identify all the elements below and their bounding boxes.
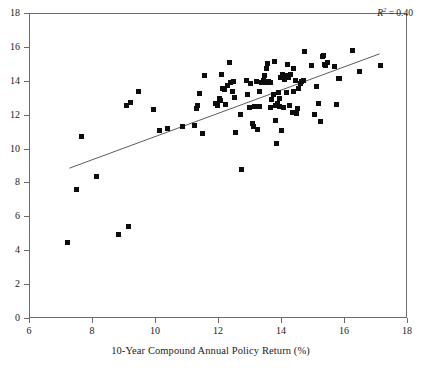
data-point xyxy=(254,79,259,84)
data-point xyxy=(223,102,228,107)
plot-data-area xyxy=(30,14,406,317)
y-tick-label: 12 xyxy=(0,109,20,121)
data-point xyxy=(334,102,339,107)
data-point xyxy=(200,131,205,136)
regression-trendline xyxy=(30,14,406,317)
data-point xyxy=(265,61,270,66)
y-tick xyxy=(24,216,29,217)
data-point xyxy=(302,49,307,54)
data-point xyxy=(337,76,342,81)
data-point xyxy=(309,63,314,68)
y-tick xyxy=(24,47,29,48)
data-point xyxy=(192,123,197,128)
y-tick-label: 16 xyxy=(0,41,20,53)
y-tick-label: 0 xyxy=(0,312,20,324)
x-tick-label: 16 xyxy=(329,325,359,337)
data-point xyxy=(227,60,232,65)
data-point xyxy=(274,141,279,146)
data-point xyxy=(350,48,355,53)
data-point xyxy=(151,107,156,112)
data-point xyxy=(264,66,269,71)
data-point xyxy=(325,60,330,65)
y-tick xyxy=(24,115,29,116)
data-point xyxy=(276,90,281,95)
r-squared-value: = 0.40 xyxy=(386,8,413,18)
x-tick xyxy=(218,318,219,323)
data-point xyxy=(238,112,243,117)
data-point xyxy=(288,72,293,77)
data-point xyxy=(215,103,220,108)
data-point xyxy=(244,78,249,83)
data-point xyxy=(195,103,200,108)
data-point xyxy=(219,72,224,77)
data-point xyxy=(295,106,300,111)
data-point xyxy=(79,134,84,139)
data-point xyxy=(268,80,273,85)
data-point xyxy=(262,73,267,78)
y-tick xyxy=(24,318,29,319)
data-point xyxy=(279,128,284,133)
data-point xyxy=(272,59,277,64)
data-point xyxy=(233,130,238,135)
data-point xyxy=(136,89,141,94)
y-tick xyxy=(24,182,29,183)
data-point xyxy=(126,224,131,229)
data-point xyxy=(332,64,337,69)
data-point xyxy=(357,69,362,74)
data-point xyxy=(273,118,278,123)
data-point xyxy=(312,112,317,117)
data-point xyxy=(284,90,289,95)
data-point xyxy=(239,167,244,172)
x-tick xyxy=(281,318,282,323)
data-point xyxy=(231,79,236,84)
data-point xyxy=(230,89,235,94)
data-point xyxy=(301,78,306,83)
x-tick-label: 14 xyxy=(266,325,296,337)
x-tick xyxy=(155,318,156,323)
data-point xyxy=(291,89,296,94)
data-point xyxy=(165,126,170,131)
data-point xyxy=(269,97,274,102)
x-tick-label: 10 xyxy=(140,325,170,337)
data-point xyxy=(255,127,260,132)
y-tick xyxy=(24,13,29,14)
x-tick-label: 8 xyxy=(77,325,107,337)
data-point xyxy=(378,63,383,68)
x-tick-label: 6 xyxy=(14,325,44,337)
data-point xyxy=(268,105,273,110)
y-tick xyxy=(24,149,29,150)
data-point xyxy=(314,84,319,89)
data-point xyxy=(318,119,323,124)
y-tick-label: 10 xyxy=(0,143,20,155)
data-point xyxy=(287,103,292,108)
data-point xyxy=(316,101,321,106)
plot-frame xyxy=(29,13,407,318)
y-tick-label: 18 xyxy=(0,7,20,19)
y-tick-label: 14 xyxy=(0,75,20,87)
y-tick-label: 8 xyxy=(0,176,20,188)
data-point xyxy=(197,91,202,96)
data-point xyxy=(65,240,70,245)
data-point xyxy=(232,95,237,100)
y-tick xyxy=(24,250,29,251)
x-tick-label: 12 xyxy=(203,325,233,337)
r-squared-annotation: R2 = 0.40 xyxy=(377,6,413,18)
x-tick-label: 18 xyxy=(392,325,421,337)
y-tick-label: 4 xyxy=(0,244,20,256)
data-point xyxy=(180,124,185,129)
data-point xyxy=(94,174,99,179)
x-tick xyxy=(92,318,93,323)
data-point xyxy=(116,232,121,237)
data-point xyxy=(257,104,262,109)
data-point xyxy=(321,53,326,58)
x-tick xyxy=(407,318,408,323)
y-tick-label: 2 xyxy=(0,278,20,290)
data-point xyxy=(257,89,262,94)
data-point xyxy=(277,96,282,101)
x-tick xyxy=(29,318,30,323)
data-point xyxy=(285,62,290,67)
data-point xyxy=(252,104,257,109)
data-point xyxy=(202,73,207,78)
data-point xyxy=(74,187,79,192)
data-point xyxy=(222,87,227,92)
